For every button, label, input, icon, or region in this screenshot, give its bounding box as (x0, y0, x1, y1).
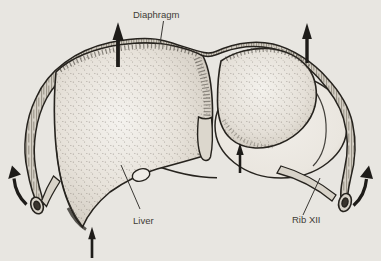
falciform-ligament-tail (198, 117, 213, 161)
label-diaphragm: Diaphragm (133, 9, 180, 20)
label-liver: Liver (133, 215, 154, 226)
liver-diaphragm-diagram: Diaphragm Liver Rib XII (0, 0, 381, 261)
anatomical-figure: Diaphragm Liver Rib XII (0, 0, 381, 261)
label-rib-xii: Rib XII (292, 214, 321, 225)
